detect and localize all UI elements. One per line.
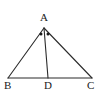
segment-ac — [44, 28, 92, 78]
vertex-label-a: A — [40, 12, 48, 23]
segment-ab — [8, 28, 44, 78]
vertex-label-c: C — [87, 80, 94, 91]
geometry-figure: A B D C — [0, 0, 102, 93]
vertex-label-b: B — [4, 80, 11, 91]
angle-dac-dot-icon — [47, 33, 50, 36]
segment-ad-bisector — [44, 28, 48, 78]
angle-bad-dot-icon — [40, 33, 43, 36]
vertex-label-d: D — [44, 80, 52, 91]
